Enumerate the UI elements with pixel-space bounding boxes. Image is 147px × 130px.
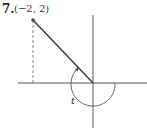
angle-label: t bbox=[71, 95, 75, 106]
point-label: (−2, 2) bbox=[14, 3, 49, 14]
problem-number: 7. bbox=[2, 2, 15, 16]
point-marker bbox=[31, 18, 35, 22]
terminal-side bbox=[33, 20, 93, 83]
coordinate-plot bbox=[0, 0, 147, 130]
diagram: 7. (−2, 2) t bbox=[0, 0, 147, 130]
